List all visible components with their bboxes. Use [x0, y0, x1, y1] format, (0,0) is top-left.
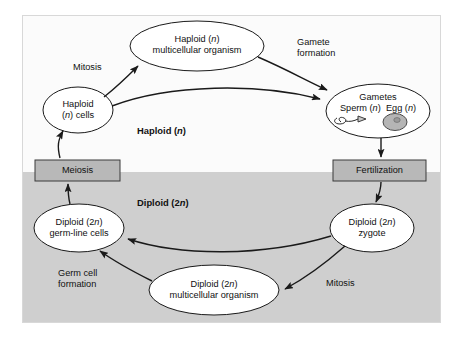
edge-mitosis-haploid — [104, 66, 138, 97]
label-meiosis[interactable]: Meiosis — [35, 165, 120, 176]
edge-fertilization-to-zygote — [376, 182, 381, 202]
edge-meiosis-to-haploid-cells — [58, 131, 63, 158]
edge-label-gamete-formation: Gamete formation — [297, 37, 335, 59]
edge-label-germ-cell-formation: Germ cell formation — [58, 268, 97, 290]
node-diploid-multicellular-organism[interactable] — [149, 265, 279, 315]
edge-label-mitosis-haploid: Mitosis — [73, 62, 102, 73]
zone-label-diploid: Diploid (2n) — [137, 197, 189, 208]
node-haploid-multicellular-organism[interactable] — [130, 21, 264, 71]
edge-gamete-formation — [258, 57, 327, 90]
node-haploid-cells[interactable] — [43, 87, 113, 133]
edge-germ-line-cells-to-meiosis — [68, 184, 70, 204]
node-gametes[interactable] — [326, 84, 430, 138]
diagram-canvas: Haploid (n) multicellular organism Haplo… — [0, 0, 460, 338]
node-diploid-zygote[interactable] — [330, 204, 414, 252]
edge-germ-cell-formation — [100, 251, 152, 281]
edge-haploid-cells-to-gametes — [112, 88, 320, 106]
zone-label-haploid: Haploid (n) — [137, 125, 186, 136]
label-fertilization[interactable]: Fertilization — [333, 165, 426, 176]
edge-zygote-to-germ-line-cells — [128, 236, 331, 252]
egg-icon — [383, 114, 407, 131]
node-diploid-germ-line-cells[interactable] — [34, 204, 124, 252]
edge-label-mitosis-diploid: Mitosis — [326, 278, 355, 289]
